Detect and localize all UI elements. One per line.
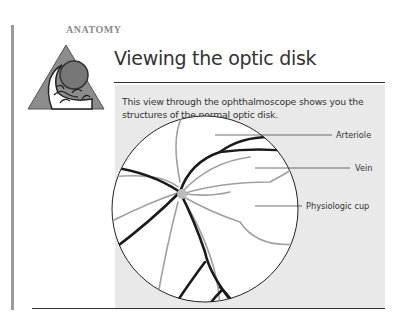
section-label: ANATOMY	[66, 24, 121, 35]
label-vein: Vein	[355, 163, 372, 173]
label-arteriole: Arteriole	[336, 130, 371, 140]
anatomy-eye-triangle-icon	[26, 43, 106, 111]
left-margin-bar	[11, 25, 14, 310]
title-divider	[114, 82, 385, 83]
page-title: Viewing the optic disk	[114, 47, 316, 69]
optic-disk-diagram: Arteriole Vein Physiologic cup	[110, 112, 400, 312]
bottom-divider	[32, 308, 385, 309]
label-physiologic-cup: Physiologic cup	[306, 201, 369, 211]
